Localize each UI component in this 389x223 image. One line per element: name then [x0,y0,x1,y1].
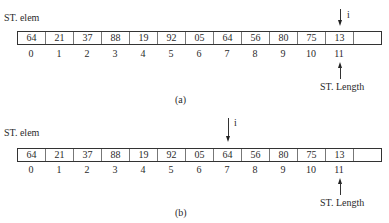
array-cell: 80 [270,32,298,44]
index-label: 3 [101,48,129,59]
index-label: 11 [325,164,353,175]
array-cell: 92 [158,149,186,161]
index-label: 8 [241,164,269,175]
array-cell: 64 [214,32,242,44]
array-cell: 37 [74,149,102,161]
arrow-down-icon [226,136,230,142]
array-cell: 37 [74,32,102,44]
index-label: 1 [45,48,73,59]
array-cell: 64 [18,149,46,161]
index-row: 0 1 2 3 4 5 6 7 8 9 10 11 [17,164,353,175]
index-label: 1 [45,164,73,175]
index-label: 10 [297,164,325,175]
index-label: 11 [325,48,353,59]
index-label: 2 [73,48,101,59]
array-cell: 92 [158,32,186,44]
figure-caption: (a) [175,94,186,105]
array-cell: 13 [326,149,354,161]
array-cell-empty [354,32,383,44]
pointer-i-label: i [347,9,350,20]
index-label: 4 [129,48,157,59]
index-label: 5 [157,48,185,59]
array-cell: 13 [326,32,354,44]
index-label: 9 [269,48,297,59]
index-row: 0 1 2 3 4 5 6 7 8 9 10 11 [17,48,353,59]
array-row: 64 21 37 88 19 92 05 64 56 80 75 13 [17,31,382,45]
length-arrow-shaft [340,67,341,79]
array-cell: 88 [102,32,130,44]
length-arrow-shaft [340,183,341,195]
index-label: 7 [213,48,241,59]
array-cell: 19 [130,149,158,161]
index-label: 4 [129,164,157,175]
array-cell: 80 [270,149,298,161]
figure-caption: (b) [175,207,187,218]
array-cell: 64 [214,149,242,161]
index-label: 3 [101,164,129,175]
index-label: 5 [157,164,185,175]
array-cell: 05 [186,149,214,161]
index-label: 10 [297,48,325,59]
length-label: ST. Length [320,81,364,92]
arrow-down-icon [338,20,342,26]
array-row: 64 21 37 88 19 92 05 64 56 80 75 13 [17,148,382,162]
array-cell: 64 [18,32,46,44]
array-cell: 75 [298,32,326,44]
pointer-i-label: i [234,117,237,128]
index-label: 7 [213,164,241,175]
index-label: 6 [185,164,213,175]
array-cell: 75 [298,149,326,161]
array-cell: 56 [242,32,270,44]
index-label: 6 [185,48,213,59]
array-cell: 05 [186,32,214,44]
index-label: 9 [269,164,297,175]
pointer-i-arrow-shaft [228,118,229,137]
array-label: ST. elem [4,127,39,138]
index-label: 0 [17,164,45,175]
array-cell-empty [354,149,383,161]
index-label: 8 [241,48,269,59]
length-label: ST. Length [320,197,364,208]
index-label: 2 [73,164,101,175]
array-cell: 21 [46,32,74,44]
index-label: 0 [17,48,45,59]
array-cell: 19 [130,32,158,44]
array-cell: 21 [46,149,74,161]
array-cell: 56 [242,149,270,161]
array-label: ST. elem [4,12,39,23]
array-cell: 88 [102,149,130,161]
